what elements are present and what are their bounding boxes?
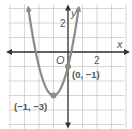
point-marker — [51, 93, 57, 99]
x-tick-label-2: 2 — [94, 55, 100, 66]
origin-label: O — [56, 54, 65, 66]
point-label-y-intercept: (0, −1) — [72, 69, 100, 80]
point-label-vertex: (−1, −3) — [14, 101, 47, 112]
graph: x y O 2 2 (−1, −3) (0, −1) — [0, 0, 132, 129]
x-axis-label: x — [116, 38, 123, 50]
point-marker — [65, 64, 71, 70]
y-tick-label-2: 2 — [60, 18, 66, 29]
